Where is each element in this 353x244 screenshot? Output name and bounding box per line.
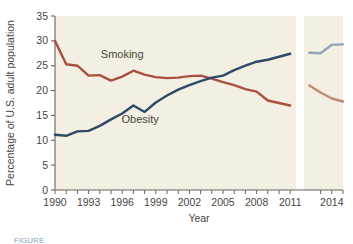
y-tick-label: 25 — [36, 59, 48, 71]
figure-caption: FIGURE — [14, 236, 44, 244]
x-tick-label: 2002 — [178, 196, 202, 208]
x-tick-label: 2008 — [245, 196, 269, 208]
annotation-smoking: Smoking — [101, 48, 144, 60]
y-tick-label: 5 — [42, 159, 48, 171]
x-axis-minor-ticks — [55, 190, 343, 194]
y-tick-label: 30 — [36, 34, 48, 46]
x-axis-tick-labels: 199019931996199920022005200820112014 — [43, 196, 343, 208]
x-tick-label: 1999 — [144, 196, 168, 208]
y-tick-label: 20 — [36, 84, 48, 96]
axis-break-gap — [296, 16, 304, 190]
y-tick-label: 15 — [36, 109, 48, 121]
y-axis-tick-labels: 05101520253035 — [36, 10, 48, 196]
x-tick-label: 2005 — [211, 196, 235, 208]
y-tick-label: 10 — [36, 134, 48, 146]
y-tick-label: 0 — [42, 184, 48, 196]
x-tick-label: 2014 — [320, 196, 344, 208]
x-tick-label: 1990 — [43, 196, 67, 208]
y-tick-label: 35 — [36, 10, 48, 22]
x-tick-label: 2011 — [279, 196, 302, 208]
x-axis-title: Year — [188, 212, 210, 224]
annotation-obesity: Obesity — [121, 113, 159, 125]
y-axis-title: Percentage of U.S. adult population — [4, 20, 16, 186]
line-chart: 05101520253035 1990199319961999200220052… — [0, 0, 353, 244]
figure-root: 05101520253035 1990199319961999200220052… — [0, 0, 353, 244]
x-tick-label: 1993 — [77, 196, 101, 208]
x-tick-label: 1996 — [111, 196, 135, 208]
